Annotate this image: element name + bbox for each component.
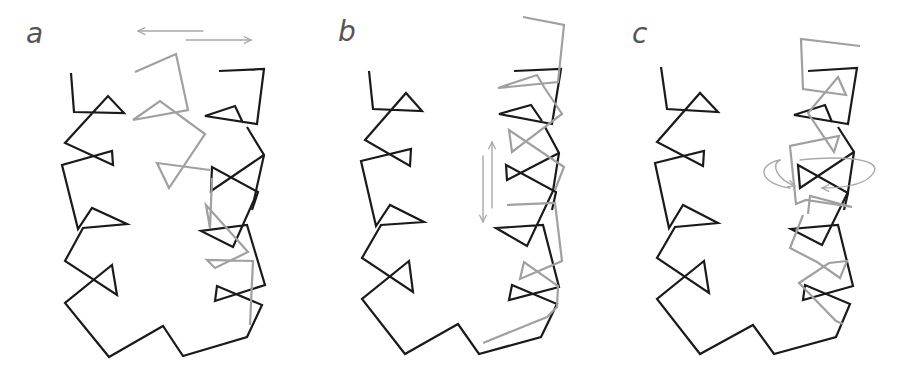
panel-b-moved-helix-lower — [483, 203, 562, 343]
panel-a-reference-mid-right — [211, 155, 264, 210]
panel-c-reference-chain — [655, 67, 854, 354]
panel-a — [62, 31, 265, 357]
figure-canvas — [0, 0, 902, 379]
panel-a-moved-helix-lower — [206, 178, 253, 325]
panel-a-reference-chain — [62, 73, 265, 357]
panel-b — [361, 17, 564, 354]
panel-b-reference-chain — [361, 71, 559, 354]
panel-b-reference-mid-right — [506, 153, 559, 210]
rotation-arrow-icon — [764, 158, 875, 188]
panel-a-reference-top-right — [205, 69, 264, 124]
panel-b-moved-helix — [498, 17, 564, 190]
panel-a-moved-helix — [133, 54, 210, 188]
helix-motion-figure: a b c — [0, 0, 902, 379]
panel-c — [655, 39, 875, 354]
